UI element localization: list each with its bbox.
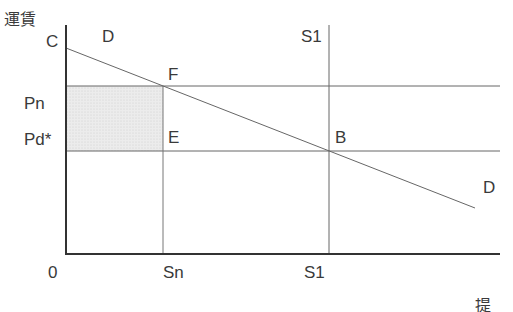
tick-s1: S1	[304, 264, 325, 281]
origin-label: 0	[48, 264, 57, 281]
point-b: B	[335, 129, 346, 146]
diagram-canvas	[0, 0, 513, 312]
point-e: E	[168, 129, 179, 146]
label-demand-bottom: D	[483, 179, 495, 196]
shaded-area	[66, 86, 163, 151]
tick-pn: Pn	[24, 95, 45, 112]
tick-c: C	[46, 33, 58, 50]
tick-sn: Sn	[163, 264, 184, 281]
label-demand-top: D	[102, 28, 114, 45]
label-supply-s1: S1	[301, 28, 322, 45]
x-axis-label-partial: 提	[475, 298, 513, 312]
point-f: F	[168, 66, 178, 83]
tick-pd: Pd*	[24, 131, 51, 148]
y-axis-label: 運賃	[4, 12, 36, 28]
